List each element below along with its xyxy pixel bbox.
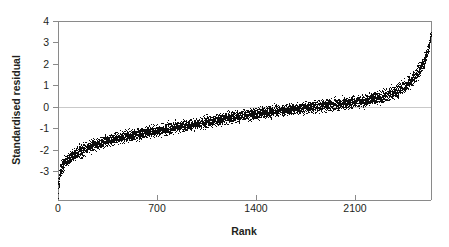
figure-background	[0, 0, 449, 247]
x-tick-label-700: 700	[148, 202, 166, 214]
chart-figure: 4 3 2 1 0 -1 -2 -3 0 700 1400 2100 Rank …	[0, 0, 449, 247]
x-axis-title: Rank	[231, 225, 257, 237]
y-axis-title: Standardised residual	[10, 55, 22, 165]
y-tick-label-minus-3: -3	[40, 165, 49, 177]
x-tick-label-1400: 1400	[244, 202, 268, 214]
y-tick-label-3: 3	[43, 36, 49, 48]
y-tick-label-1: 1	[43, 79, 49, 91]
x-tick-label-0: 0	[55, 202, 61, 214]
y-tick-label-minus-1: -1	[40, 122, 49, 134]
y-tick-label-0: 0	[43, 101, 49, 113]
scatter-plot-canvas: 4 3 2 1 0 -1 -2 -3 0 700 1400 2100 Rank …	[0, 0, 449, 247]
y-tick-label-4: 4	[43, 15, 49, 27]
y-tick-label-minus-2: -2	[40, 144, 49, 156]
x-tick-label-2100: 2100	[343, 202, 367, 214]
y-tick-label-2: 2	[43, 58, 49, 70]
